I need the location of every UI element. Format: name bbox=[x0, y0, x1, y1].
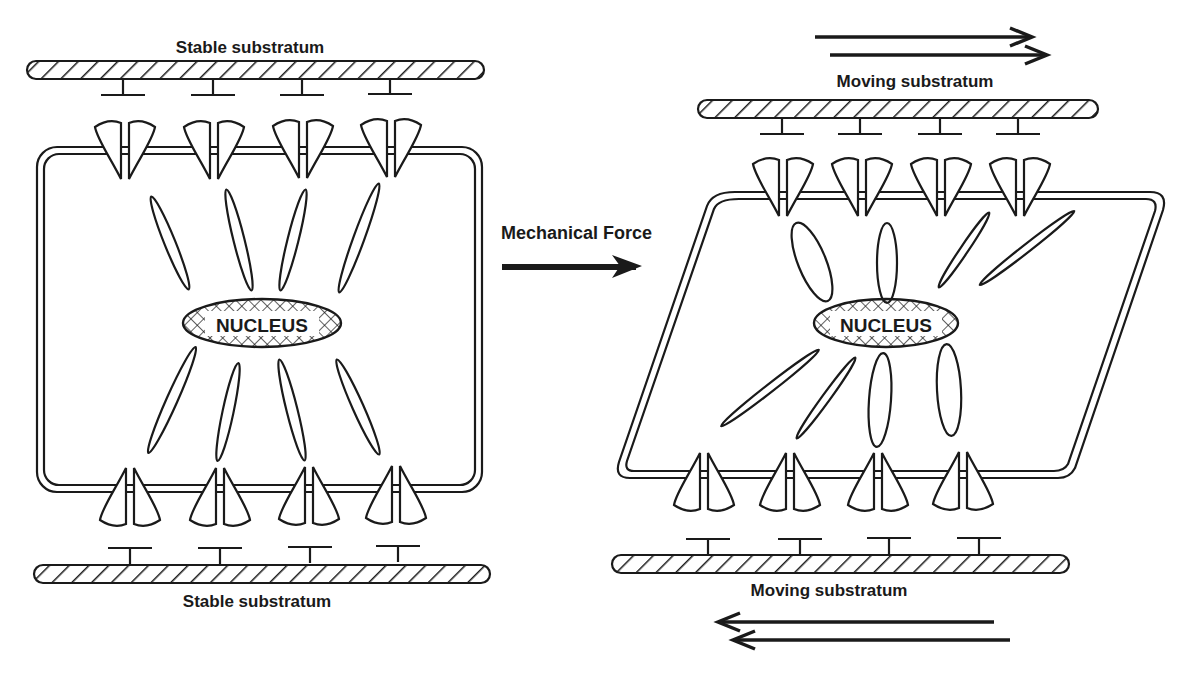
mechanical-force-label: Mechanical Force bbox=[501, 223, 652, 243]
top-motion-arrows bbox=[815, 28, 1047, 64]
right-top-anchors bbox=[760, 118, 1040, 134]
right-bottom-anchors bbox=[686, 538, 1001, 555]
mechanical-force: Mechanical Force bbox=[501, 223, 652, 278]
left-nucleus-label: NUCLEUS bbox=[216, 315, 308, 336]
right-nucleus: NUCLEUS bbox=[814, 299, 958, 347]
left-top-substratum bbox=[27, 61, 484, 79]
right-bottom-substratum-label: Moving substratum bbox=[751, 581, 908, 600]
mechanotransduction-diagram: Stable substratum bbox=[0, 0, 1196, 674]
left-nucleus: NUCLEUS bbox=[183, 299, 341, 347]
left-top-anchors bbox=[101, 78, 412, 95]
right-bottom-substratum bbox=[612, 555, 1069, 573]
right-panel: Moving substratum bbox=[612, 28, 1164, 649]
left-bottom-substratum bbox=[34, 565, 490, 583]
right-top-substratum-label: Moving substratum bbox=[837, 72, 994, 91]
left-top-substratum-label: Stable substratum bbox=[176, 38, 324, 57]
bottom-motion-arrows bbox=[718, 613, 1010, 649]
right-nucleus-label: NUCLEUS bbox=[840, 315, 932, 336]
left-panel: Stable substratum bbox=[27, 38, 490, 611]
left-bottom-anchors bbox=[108, 546, 420, 564]
right-top-substratum bbox=[698, 100, 1098, 118]
left-bottom-substratum-label: Stable substratum bbox=[183, 592, 331, 611]
